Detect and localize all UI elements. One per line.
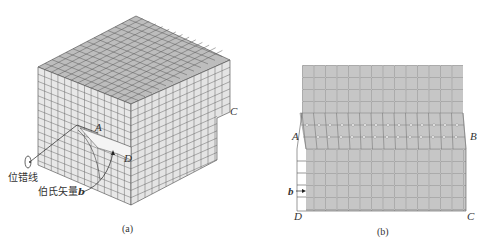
label-b-B: B xyxy=(470,131,477,142)
caption-a: (a) xyxy=(122,224,133,234)
burgers-circuit-strip xyxy=(297,149,306,211)
burgers-vector-label: 伯氏矢量b xyxy=(38,187,85,197)
label-b-C: C xyxy=(467,211,474,222)
dislocation-figure xyxy=(0,0,483,246)
label-b-D: D xyxy=(294,211,302,222)
cube-diagram xyxy=(25,16,230,205)
upper-lattice xyxy=(302,65,463,113)
label-b-b: b xyxy=(288,186,294,197)
burgers-vector-symbol: b xyxy=(78,186,85,197)
burgers-vector-text: 伯氏矢量 xyxy=(38,186,78,197)
label-a-D: D xyxy=(124,153,132,164)
lattice-diagram xyxy=(296,65,466,211)
label-b-A: A xyxy=(292,131,299,142)
dislocation-line-label: 位错线 xyxy=(8,173,38,183)
label-a-A: A xyxy=(95,122,102,133)
label-a-C: C xyxy=(230,106,237,117)
caption-b: (b) xyxy=(377,227,389,237)
lower-lattice xyxy=(306,149,466,211)
